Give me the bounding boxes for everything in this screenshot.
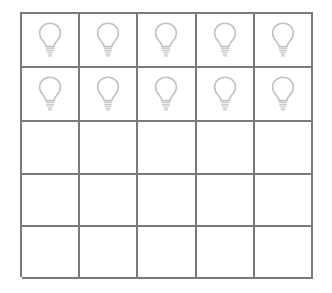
grid-cell[interactable] — [22, 68, 80, 122]
grid-cell[interactable] — [255, 68, 313, 122]
grid-cell[interactable] — [197, 227, 255, 279]
grid-cell[interactable] — [22, 175, 80, 227]
grid-cell[interactable] — [138, 68, 196, 122]
grid-cell[interactable] — [197, 68, 255, 122]
grid-cell[interactable] — [80, 227, 138, 279]
light-bulb-icon — [93, 20, 123, 60]
light-bulb-icon — [268, 74, 298, 114]
light-bulb-icon — [151, 74, 181, 114]
grid-cell[interactable] — [255, 122, 313, 175]
grid-cell[interactable] — [22, 14, 80, 68]
grid-cell[interactable] — [197, 122, 255, 175]
grid-cell[interactable] — [138, 175, 196, 227]
grid-cell[interactable] — [80, 122, 138, 175]
light-bulb-icon — [35, 20, 65, 60]
grid-cell[interactable] — [80, 68, 138, 122]
light-bulb-icon — [151, 20, 181, 60]
grid-cell[interactable] — [138, 14, 196, 68]
grid-cell[interactable] — [22, 122, 80, 175]
grid-cell[interactable] — [255, 227, 313, 279]
grid-cell[interactable] — [255, 175, 313, 227]
grid-cell[interactable] — [255, 14, 313, 68]
grid-cell[interactable] — [138, 227, 196, 279]
light-bulb-icon — [35, 74, 65, 114]
grid-cell[interactable] — [197, 175, 255, 227]
screenshot-canvas — [0, 0, 332, 293]
grid-cell[interactable] — [197, 14, 255, 68]
light-bulb-icon — [93, 74, 123, 114]
grid-cell[interactable] — [80, 14, 138, 68]
grid-cell[interactable] — [138, 122, 196, 175]
bulb-grid — [20, 12, 313, 277]
light-bulb-icon — [210, 74, 240, 114]
grid-cell[interactable] — [22, 227, 80, 279]
light-bulb-icon — [268, 20, 298, 60]
light-bulb-icon — [210, 20, 240, 60]
grid-cell[interactable] — [80, 175, 138, 227]
